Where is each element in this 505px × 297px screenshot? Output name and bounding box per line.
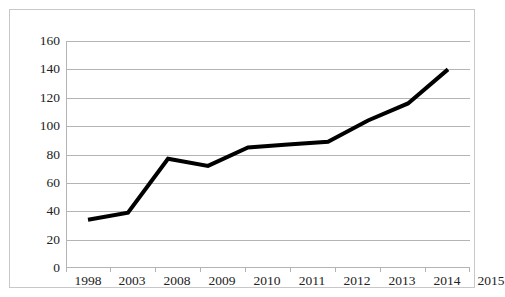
x-tick-label-2003: 2003 (119, 274, 146, 289)
y-tick-label-120: 120 (14, 91, 60, 105)
y-tick-label-40: 40 (14, 205, 60, 219)
x-tick-label-2014: 2014 (434, 274, 461, 289)
x-tick-label-2012: 2012 (344, 274, 371, 289)
y-axis-tick-labels: 0 20 40 60 80 100 120 140 160 (10, 41, 60, 268)
x-tick-mark-2 (155, 268, 156, 272)
x-tick-mark-3 (200, 268, 201, 272)
x-tick-mark-8 (425, 268, 426, 272)
x-tick-label-1998: 1998 (75, 274, 102, 289)
x-tick-label-2015: 2015 (478, 274, 505, 289)
x-tick-mark-5 (290, 268, 291, 272)
x-tick-mark-6 (335, 268, 336, 272)
y-tick-label-20: 20 (14, 233, 60, 247)
x-tick-label-2008: 2008 (164, 274, 191, 289)
x-tick-mark-7 (380, 268, 381, 272)
x-tick-label-2013: 2013 (389, 274, 416, 289)
y-tick-label-60: 60 (14, 176, 60, 190)
x-tick-label-2009: 2009 (209, 274, 236, 289)
y-tick-label-140: 140 (14, 63, 60, 77)
x-tick-label-2010: 2010 (254, 274, 281, 289)
chart-plot-frame: 0 20 40 60 80 100 120 140 160 (9, 9, 475, 288)
series-1-line (66, 41, 470, 268)
x-axis-tick-labels: 1998 2003 2008 2009 2010 2011 2012 2013 … (66, 274, 470, 294)
y-tick-label-80: 80 (14, 148, 60, 162)
x-tick-mark-4 (245, 268, 246, 272)
y-tick-label-160: 160 (14, 34, 60, 48)
x-tick-mark-0 (66, 268, 67, 272)
y-tick-label-0: 0 (14, 261, 60, 275)
series-1-polyline (88, 69, 448, 219)
y-tick-label-100: 100 (14, 119, 60, 133)
x-tick-mark-9 (469, 268, 470, 272)
x-tick-label-2011: 2011 (299, 274, 326, 289)
x-tick-mark-1 (110, 268, 111, 272)
